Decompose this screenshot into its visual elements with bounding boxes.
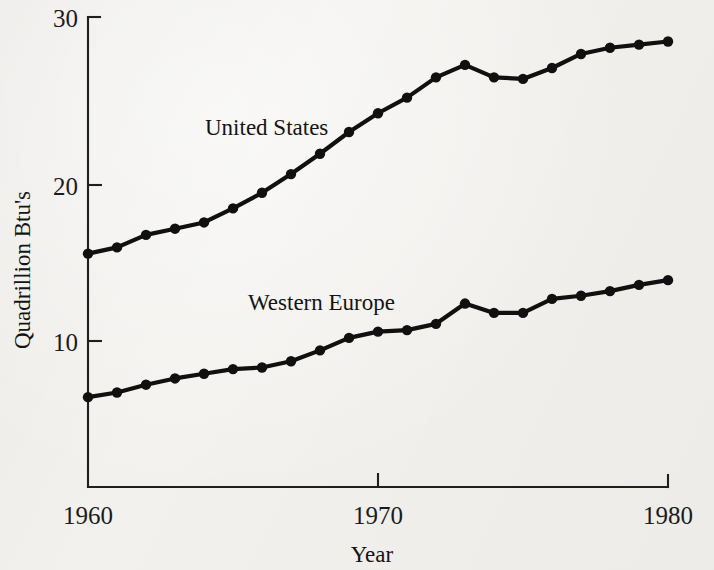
data-point <box>431 72 441 82</box>
data-point <box>663 36 673 46</box>
data-point <box>286 169 296 179</box>
data-point <box>576 49 586 59</box>
data-point <box>83 248 93 258</box>
data-point <box>199 217 209 227</box>
data-point <box>431 319 441 329</box>
data-point <box>402 325 412 335</box>
x-tick-label-1960: 1960 <box>63 502 113 529</box>
y-tick-label-10: 10 <box>53 329 78 356</box>
data-point <box>344 333 354 343</box>
data-point <box>112 242 122 252</box>
data-point <box>547 63 557 73</box>
data-point <box>228 203 238 213</box>
data-point <box>576 291 586 301</box>
y-tick-label-20: 20 <box>53 173 78 200</box>
data-point <box>112 387 122 397</box>
chart-page: 30 20 10 1960 1970 1980 Year Quadrillion… <box>0 0 714 570</box>
data-point <box>315 345 325 355</box>
y-axis-title: Quadrillion Btu's <box>10 191 35 349</box>
data-point <box>257 362 267 372</box>
data-point <box>605 286 615 296</box>
series-united-states <box>83 36 673 259</box>
data-point <box>257 188 267 198</box>
data-point <box>605 43 615 53</box>
data-point <box>286 356 296 366</box>
x-tick-label-1970: 1970 <box>353 502 403 529</box>
data-point <box>663 275 673 285</box>
series-points-united-states <box>83 36 673 259</box>
energy-consumption-line-chart: 30 20 10 1960 1970 1980 Year Quadrillion… <box>0 0 714 570</box>
series-label-united-states: United States <box>205 115 328 140</box>
data-point <box>344 127 354 137</box>
y-tick-label-30: 30 <box>53 5 78 32</box>
data-point <box>170 223 180 233</box>
data-point <box>199 369 209 379</box>
x-tick-label-1980: 1980 <box>643 502 693 529</box>
data-point <box>634 280 644 290</box>
data-point <box>402 92 412 102</box>
data-point <box>460 60 470 70</box>
data-point <box>315 149 325 159</box>
data-point <box>489 72 499 82</box>
x-axis-title: Year <box>351 542 394 567</box>
axis-group <box>88 17 668 487</box>
data-point <box>518 74 528 84</box>
data-point <box>634 39 644 49</box>
data-point <box>489 308 499 318</box>
data-point <box>170 373 180 383</box>
data-point <box>518 308 528 318</box>
data-point <box>141 230 151 240</box>
data-point <box>547 294 557 304</box>
data-point <box>83 392 93 402</box>
data-point <box>228 364 238 374</box>
data-point <box>460 298 470 308</box>
series-label-western-europe: Western Europe <box>248 290 395 315</box>
data-point <box>373 326 383 336</box>
series-line-united-states <box>88 41 668 253</box>
data-point <box>373 108 383 118</box>
tick-label-group: 30 20 10 1960 1970 1980 <box>53 5 693 529</box>
data-point <box>141 379 151 389</box>
